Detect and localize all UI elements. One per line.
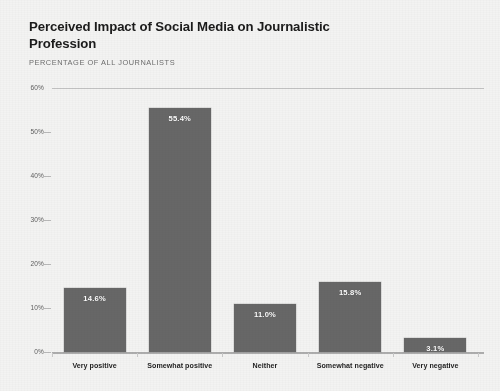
x-axis-category-label: Somewhat positive bbox=[137, 362, 222, 370]
category-divider bbox=[222, 353, 223, 357]
y-axis-tick-label: 40% bbox=[20, 172, 44, 179]
y-axis-tick-mark bbox=[43, 264, 51, 265]
bar-value-label: 55.4% bbox=[149, 114, 211, 123]
y-axis-tick-label: 0% bbox=[20, 348, 44, 355]
y-axis-tick-mark bbox=[43, 132, 51, 133]
bar-value-label: 14.6% bbox=[64, 294, 126, 303]
bar-value-label: 15.8% bbox=[319, 288, 381, 297]
y-axis-tick-mark bbox=[43, 308, 51, 309]
x-axis-category-label: Very positive bbox=[52, 362, 137, 370]
plot-area: 0%10%20%30%40%50%60%14.6%Very positive55… bbox=[0, 0, 500, 391]
y-axis-tick-mark bbox=[43, 220, 51, 221]
gridline-60-percent bbox=[52, 88, 484, 89]
category-divider bbox=[478, 353, 479, 357]
y-axis-tick-label: 30% bbox=[20, 216, 44, 223]
x-axis-category-label: Somewhat negative bbox=[308, 362, 393, 370]
y-axis-tick-label: 20% bbox=[20, 260, 44, 267]
bar[interactable] bbox=[149, 108, 211, 352]
bar-value-label: 11.0% bbox=[234, 310, 296, 319]
y-axis-tick-mark bbox=[43, 176, 51, 177]
category-divider bbox=[393, 353, 394, 357]
y-axis-tick-mark bbox=[43, 352, 51, 353]
category-divider bbox=[308, 353, 309, 357]
bar-value-label: 3.1% bbox=[404, 344, 466, 353]
y-axis-tick-label: 50% bbox=[20, 128, 44, 135]
x-axis-category-label: Neither bbox=[222, 362, 307, 370]
category-divider bbox=[52, 353, 53, 357]
category-divider bbox=[137, 353, 138, 357]
y-axis-tick-label: 60% bbox=[20, 84, 44, 91]
y-axis-tick-label: 10% bbox=[20, 304, 44, 311]
x-axis-category-label: Very negative bbox=[393, 362, 478, 370]
chart-screenshot: Perceived Impact of Social Media on Jour… bbox=[0, 0, 500, 391]
